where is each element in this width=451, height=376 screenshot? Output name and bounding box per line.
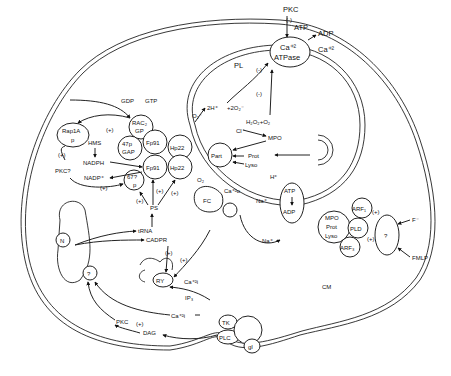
svg-text:47p: 47p: [122, 141, 133, 147]
fp91-top-node: Fp91: [143, 130, 167, 154]
svg-text:Part: Part: [211, 153, 222, 159]
fp91-bottom-node: Fp91: [143, 155, 167, 179]
gdp-label: GDP: [121, 98, 134, 104]
svg-text:(+): (+): [136, 198, 144, 204]
svg-text:GP: GP: [135, 128, 144, 134]
fc-receptor-node: FC: [194, 186, 223, 212]
pathway-diagram: Ca⁺² ATPase PKC (-) ATP ADP Ca⁺² PL RAC₂…: [0, 0, 451, 376]
arf3-node: ARF₃: [340, 237, 360, 257]
nadph-label: NADPH: [83, 160, 104, 166]
svg-text:GAP: GAP: [122, 149, 135, 155]
rap1a-node: Rap1A p: [57, 123, 89, 147]
ca-atpase-line1: Ca⁺²: [280, 43, 297, 52]
svg-text:Fp91: Fp91: [146, 140, 160, 146]
pl-label: PL: [234, 61, 243, 70]
pld-node: PLD: [348, 218, 368, 238]
prot-label: Prot: [248, 153, 259, 159]
svg-text:Prot: Prot: [326, 224, 337, 230]
svg-text:RAC₂: RAC₂: [132, 120, 148, 126]
cadpr-label: CADPR: [146, 237, 168, 243]
lyso-label: Lyso: [245, 162, 258, 168]
ca-atpase-node: Ca⁺² ATPase: [270, 37, 310, 67]
phagosome-membrane: [187, 45, 365, 205]
svg-text:(+): (+): [136, 321, 144, 327]
svg-text:(+): (+): [100, 185, 108, 191]
atp-top-label: ATP: [294, 23, 308, 32]
ca-i-mid-label: Ca⁺²i: [171, 313, 185, 319]
cm-label: CM: [322, 284, 331, 290]
h-plus-label: H⁺: [270, 174, 277, 180]
diagram-canvas: Ca⁺² ATPase PKC (-) ATP ADP Ca⁺² PL RAC₂…: [0, 0, 451, 376]
fmlp-label: FMLP: [412, 255, 428, 261]
pkc-top-label: PKC: [283, 5, 299, 14]
svg-text:PLC: PLC: [219, 335, 231, 341]
svg-text:FC: FC: [203, 198, 212, 204]
hp22-bottom-node: Hp22: [168, 155, 192, 179]
arf1-node: ARF₁: [352, 198, 372, 218]
svg-text:gI: gI: [248, 344, 253, 350]
oxygen-label: O₂: [197, 177, 205, 183]
svg-text:Hp22: Hp22: [170, 145, 185, 151]
svg-text:N: N: [60, 238, 64, 244]
ca-out-top-label: Ca⁺²: [318, 45, 335, 54]
svg-text:(+): (+): [58, 152, 66, 158]
svg-text:Hp22: Hp22: [170, 165, 185, 171]
ip3-label: IP₃: [185, 295, 194, 301]
svg-text:ATP: ATP: [284, 188, 295, 194]
svg-text:RY: RY: [156, 278, 164, 284]
svg-text:MPO: MPO: [325, 215, 339, 221]
svg-text:ADP: ADP: [283, 209, 295, 215]
svg-text:ARF₁: ARF₁: [352, 206, 366, 212]
particle-node: Part: [208, 143, 232, 167]
svg-text:(-): (-): [256, 91, 262, 97]
svg-text:PLD: PLD: [350, 226, 362, 232]
unknown-receptor-node: ?: [375, 215, 399, 255]
svg-text:ARF₃: ARF₃: [340, 245, 355, 251]
ry-node: RY: [153, 273, 173, 287]
svg-text:(+): (+): [180, 257, 188, 263]
svg-text:Lyso: Lyso: [325, 233, 338, 239]
ca-out-label: Ca⁺²o: [224, 188, 241, 194]
p47-gap-node: 47p GAP: [118, 136, 142, 160]
ps-label: PS: [150, 205, 158, 211]
two-superoxide-label: +2O₂⁻: [227, 105, 244, 111]
svg-text:(+): (+): [367, 236, 375, 242]
gi-node: gI: [244, 339, 260, 353]
mpo-label: MPO: [268, 135, 282, 141]
svg-text:Rap1A: Rap1A: [62, 128, 80, 134]
svg-text:(+): (+): [165, 250, 173, 256]
ca-atpase-line2: ATPase: [274, 53, 300, 62]
unknown-target-node: ?: [83, 266, 97, 280]
svg-text:(+): (+): [171, 190, 179, 196]
na-in-label: Na⁺: [256, 198, 267, 204]
pkc-q-label: PKC?: [55, 168, 71, 174]
svg-text:(+): (+): [106, 127, 114, 133]
svg-text:TK: TK: [222, 320, 230, 326]
trna-label: tRNA: [138, 228, 152, 234]
pkc-bottom-label: PKC: [116, 319, 129, 325]
hms-label: HMS: [88, 140, 101, 146]
svg-text:Fp91: Fp91: [146, 165, 160, 171]
peroxide-label: H₂O₂+O₂: [246, 119, 271, 125]
svg-text:(+): (+): [156, 188, 164, 194]
chloride-label: Cl⁻: [236, 128, 245, 134]
svg-text:(-): (-): [256, 67, 262, 73]
dag-label: DAG: [143, 330, 156, 336]
nadp-label: NADP⁺: [84, 175, 104, 181]
ca-i-top-label: Ca⁺²i: [184, 279, 198, 285]
protons-label: 2H⁺: [207, 105, 218, 111]
svg-text:(+): (+): [372, 209, 380, 215]
gtp-label: GTP: [145, 98, 157, 104]
nucleus-node: N: [56, 233, 70, 247]
adp-top-label: ADP: [318, 29, 333, 38]
fluoride-label: F⁻: [412, 217, 419, 223]
